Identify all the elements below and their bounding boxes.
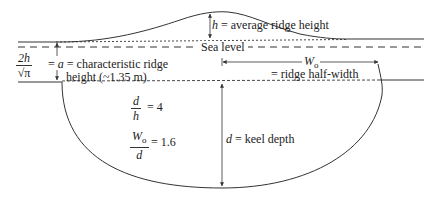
ratio-d-h: d h bbox=[131, 95, 141, 122]
ratio-d-h-value: = 4 bbox=[147, 101, 163, 114]
ratio-w0-d: Wo d bbox=[130, 130, 149, 161]
char-height-value: height (~1.35 m) bbox=[66, 71, 147, 84]
keel-depth-label: d = keel depth bbox=[226, 133, 294, 146]
sea-level-label: Sea level bbox=[198, 41, 248, 54]
h-label: h = average ridge height bbox=[212, 19, 329, 32]
ratio-w0-d-value: = 1.6 bbox=[151, 136, 176, 149]
char-height-fraction: 2h √π bbox=[16, 52, 32, 79]
half-width-label: = ridge half-width bbox=[271, 68, 358, 81]
